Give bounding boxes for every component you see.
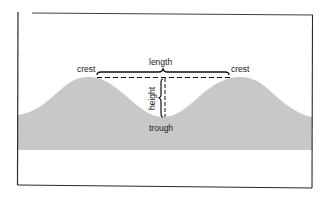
height-label: height — [147, 86, 157, 110]
length-label: length — [149, 57, 172, 67]
crest-right-label: crest — [231, 64, 250, 74]
wave-diagram: crest length crest height trough — [0, 0, 325, 199]
crest-left-label: crest — [77, 64, 96, 74]
trough-label: trough — [149, 123, 173, 133]
length-brace-icon — [97, 69, 229, 75]
height-brace-icon — [159, 79, 163, 117]
